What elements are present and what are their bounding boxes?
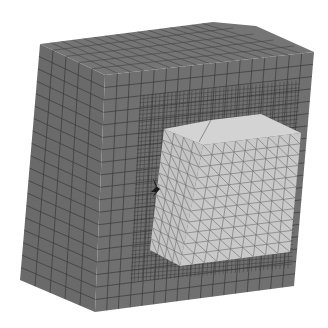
inner-cube	[150, 114, 301, 266]
mesh-viewport[interactable]	[0, 0, 328, 328]
outer-left-face	[20, 44, 105, 312]
mesh-render	[0, 0, 328, 328]
